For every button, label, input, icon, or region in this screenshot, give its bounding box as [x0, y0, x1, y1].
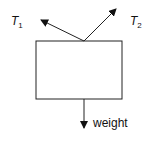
body-box — [36, 41, 122, 99]
t1-arrow — [41, 20, 84, 41]
t1-label: T1 — [11, 14, 23, 30]
t2-label: T2 — [130, 14, 142, 30]
weight-label: weight — [92, 116, 128, 130]
free-body-diagram: T1 T2 weight — [0, 0, 152, 142]
t2-arrow — [84, 9, 116, 41]
